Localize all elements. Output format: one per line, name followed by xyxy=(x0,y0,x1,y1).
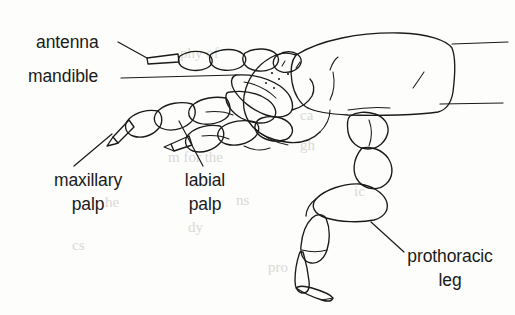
leader-mandible xyxy=(121,75,236,78)
head-puncture-dot xyxy=(278,78,280,80)
tibia-joint-line xyxy=(302,250,327,252)
insect-head-diagram: phy of ca m for the gh ic ns he dy cs pr… xyxy=(0,0,515,315)
maxillary-palp-apical-segment xyxy=(113,120,134,143)
head-puncture-dot xyxy=(271,72,273,74)
pronotum-crease-1 xyxy=(330,72,334,100)
pronotum-outline xyxy=(296,33,455,115)
leg-coxa xyxy=(347,112,388,149)
label-prothoracic-leg-line2: leg xyxy=(438,270,461,290)
label-maxillary-palp-line1: maxillary xyxy=(54,170,122,190)
label-maxillary-palp-line2: palp xyxy=(72,194,105,214)
ghost-text: dy xyxy=(188,219,204,235)
background-showthrough-text: phy of ca m for the gh ic ns he dy cs pr… xyxy=(72,45,365,275)
labium-base xyxy=(255,117,292,142)
ghost-text: pro xyxy=(268,259,288,275)
leader-maxillary-palp xyxy=(74,134,112,166)
label-mandible: mandible xyxy=(28,66,98,86)
ghost-text: ns xyxy=(236,192,250,208)
leader-prothoracic-leg xyxy=(371,222,404,252)
head-puncture-dot xyxy=(273,87,275,89)
head-puncture-dot xyxy=(287,73,289,75)
label-antenna: antenna xyxy=(36,32,99,52)
label-labial-palp-line1: labial xyxy=(185,170,225,190)
ghost-text: he xyxy=(105,194,120,210)
antenna-scape xyxy=(147,54,179,64)
label-labial-palp-line2: palp xyxy=(189,194,222,214)
pronotum-crease-2 xyxy=(330,57,338,70)
labial-lobe xyxy=(244,146,270,150)
pronotum-crease-3 xyxy=(348,108,390,110)
figure-page: phy of ca m for the gh ic ns he dy cs pr… xyxy=(0,0,515,315)
ghost-text: cs xyxy=(72,237,85,253)
leader-antenna xyxy=(118,42,147,58)
leg-trochanter xyxy=(354,147,392,188)
labial-palp-segment-1 xyxy=(186,125,224,152)
pronotum-crease-4 xyxy=(413,72,424,88)
label-prothoracic-leg-line1: prothoracic xyxy=(407,246,493,266)
leader-stub-upper-right xyxy=(452,42,508,44)
coxa-crease xyxy=(369,120,371,146)
mouthpart-hatch-2 xyxy=(202,136,229,139)
leg-tibia xyxy=(301,215,329,264)
head-puncture-dot xyxy=(265,82,267,84)
head-seta xyxy=(282,61,285,66)
